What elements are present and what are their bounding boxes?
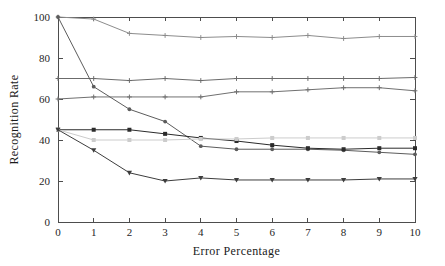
circle-marker <box>377 150 381 154</box>
plus-marker <box>91 95 96 100</box>
plus-marker <box>127 78 132 83</box>
plus-marker <box>377 34 382 39</box>
x-tick-label: 2 <box>127 226 133 238</box>
circle-marker <box>92 85 96 89</box>
chart-series <box>56 75 418 83</box>
data-point-marker <box>163 120 167 124</box>
x-tick-label: 8 <box>341 226 347 238</box>
data-point-marker <box>306 146 310 150</box>
data-point-marker <box>198 95 203 100</box>
y-tick-label: 20 <box>39 175 51 187</box>
plus-marker <box>234 89 239 94</box>
data-point-marker <box>91 95 96 100</box>
plus-marker <box>270 35 275 40</box>
plus-marker <box>306 76 311 81</box>
data-point-marker <box>413 34 418 39</box>
plus-marker <box>377 85 382 90</box>
data-point-marker <box>235 137 239 141</box>
data-point-marker <box>56 15 60 19</box>
circle-marker <box>235 147 239 151</box>
line-chart-plot: 012345678910020406080100Error Percentage… <box>0 0 445 266</box>
data-point-marker <box>56 97 61 102</box>
x-tick-label: 10 <box>410 226 422 238</box>
data-point-marker <box>234 34 239 39</box>
square-marker <box>92 128 96 132</box>
y-axis-title: Recognition Rate <box>7 74 21 164</box>
plus-marker <box>234 76 239 81</box>
x-tick-label: 3 <box>162 226 168 238</box>
data-point-marker <box>198 35 203 40</box>
data-point-marker <box>341 76 346 81</box>
y-tick-label: 0 <box>45 216 51 228</box>
plus-marker <box>234 34 239 39</box>
circle-marker <box>270 147 274 151</box>
square-marker <box>127 138 131 142</box>
plus-marker <box>163 95 168 100</box>
plus-marker <box>341 36 346 41</box>
chart-series <box>55 128 417 184</box>
data-point-marker <box>270 89 275 94</box>
square-marker <box>413 146 417 150</box>
data-point-marker <box>413 146 417 150</box>
chart-series <box>56 85 418 101</box>
data-point-marker <box>413 136 417 140</box>
square-marker <box>377 146 381 150</box>
data-point-marker <box>92 128 96 132</box>
data-point-marker <box>198 78 203 83</box>
x-tick-label: 5 <box>234 226 240 238</box>
data-point-marker <box>92 85 96 89</box>
y-tick-label: 60 <box>39 93 51 105</box>
plus-marker <box>163 33 168 38</box>
triangle-down-marker <box>91 148 96 153</box>
square-marker <box>306 146 310 150</box>
x-tick-label: 9 <box>377 226 383 238</box>
data-point-marker <box>127 138 131 142</box>
data-point-marker <box>341 85 346 90</box>
data-point-marker <box>91 76 96 81</box>
x-tick-label: 6 <box>269 226 275 238</box>
data-point-marker <box>199 137 203 141</box>
square-marker <box>413 136 417 140</box>
data-point-marker <box>377 85 382 90</box>
data-point-marker <box>377 146 381 150</box>
data-point-marker <box>92 138 96 142</box>
plus-marker <box>413 75 418 80</box>
data-point-marker <box>270 76 275 81</box>
data-point-marker <box>342 136 346 140</box>
data-point-marker <box>270 136 274 140</box>
plus-marker <box>198 35 203 40</box>
data-point-marker <box>342 147 346 151</box>
data-point-marker <box>270 143 274 147</box>
data-point-marker <box>235 147 239 151</box>
data-point-marker <box>127 95 132 100</box>
square-marker <box>306 136 310 140</box>
x-tick-label: 1 <box>91 226 97 238</box>
plus-marker <box>163 76 168 81</box>
plus-marker <box>270 89 275 94</box>
square-marker <box>163 132 167 136</box>
square-marker <box>342 136 346 140</box>
data-point-marker <box>234 76 239 81</box>
y-tick-label: 80 <box>39 52 51 64</box>
plus-marker <box>413 88 418 93</box>
data-point-marker <box>306 33 311 38</box>
plus-marker <box>413 34 418 39</box>
plus-marker <box>341 85 346 90</box>
circle-marker <box>163 120 167 124</box>
square-marker <box>235 137 239 141</box>
data-point-marker <box>127 78 132 83</box>
square-marker <box>127 128 131 132</box>
circle-marker <box>56 15 60 19</box>
data-point-marker <box>163 95 168 100</box>
data-point-marker <box>270 147 274 151</box>
data-point-marker <box>413 88 418 93</box>
plus-marker <box>341 76 346 81</box>
data-point-marker <box>163 132 167 136</box>
plus-marker <box>198 95 203 100</box>
data-point-marker <box>163 33 168 38</box>
plus-marker <box>198 78 203 83</box>
plus-marker <box>377 76 382 81</box>
data-point-marker <box>127 31 132 36</box>
chart-figure: 012345678910020406080100Error Percentage… <box>0 0 445 266</box>
circle-marker <box>127 107 131 111</box>
